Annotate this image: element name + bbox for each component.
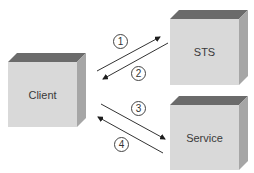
sequence-diagram: Client STS Service 1 2 3 4 [0, 0, 254, 173]
client-label: Client [28, 89, 56, 101]
client-node: Client [8, 53, 86, 127]
arrow-4-service-to-client [98, 117, 163, 153]
service-node: Service [170, 96, 248, 170]
sts-node: STS [170, 10, 248, 85]
step-1-badge: 1 [113, 34, 128, 49]
step-4-badge: 4 [114, 137, 129, 152]
sts-label: STS [194, 46, 215, 58]
step-2-badge: 2 [131, 66, 146, 81]
arrow-1-client-to-sts [97, 37, 160, 71]
step-3-badge: 3 [131, 101, 146, 116]
service-label: Service [186, 132, 223, 144]
